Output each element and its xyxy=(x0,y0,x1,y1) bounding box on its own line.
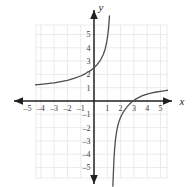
y-tick-label: –4 xyxy=(82,150,91,159)
x-tick-label: –3 xyxy=(49,104,58,113)
y-axis-arrow-down xyxy=(90,175,98,184)
x-tick-label: 4 xyxy=(145,104,149,113)
y-tick-label: 1 xyxy=(87,84,91,93)
y-tick-label: –1 xyxy=(82,110,91,119)
x-tick-label: 5 xyxy=(159,104,163,113)
x-axis-label: x xyxy=(179,95,185,107)
y-axis-label: y xyxy=(98,1,104,13)
y-tick-label: 4 xyxy=(87,44,91,53)
x-tick-label: –5 xyxy=(23,104,32,113)
x-tick-label: 1 xyxy=(105,104,109,113)
x-axis-arrow-left xyxy=(14,97,23,105)
y-axis-arrow-up xyxy=(90,10,98,19)
y-tick-label: 5 xyxy=(87,30,91,39)
coordinate-plane-svg: –5–4–3–2–112345–5–4–3–2–112345 xy xyxy=(0,0,195,187)
y-tick-label: 3 xyxy=(87,57,91,66)
x-tick-label: –2 xyxy=(62,104,71,113)
graph-figure: –5–4–3–2–112345–5–4–3–2–112345 xy xyxy=(0,0,195,187)
y-tick-label: –5 xyxy=(82,163,91,172)
x-tick-label: 2 xyxy=(119,104,123,113)
x-tick-label: 3 xyxy=(132,104,136,113)
y-tick-label: –2 xyxy=(82,124,91,133)
x-axis-arrow-right xyxy=(163,97,172,105)
x-tick-label: –4 xyxy=(36,104,45,113)
y-tick-label: –3 xyxy=(82,137,91,146)
